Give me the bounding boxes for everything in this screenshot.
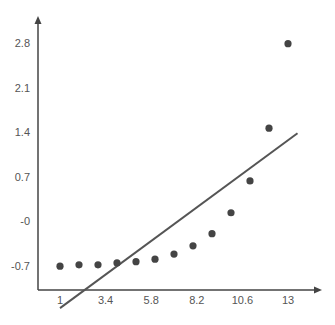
data-point — [132, 258, 139, 265]
regression-line — [60, 133, 298, 308]
data-point — [56, 263, 63, 270]
fit-line — [60, 133, 298, 308]
scatter-chart: 13.45.88.210.613-0.7-00.71.42.12.8 — [0, 0, 335, 325]
y-axis-arrow-icon — [35, 16, 42, 24]
x-tick-label: 8.2 — [189, 294, 204, 306]
tick-labels: 13.45.88.210.613-0.7-00.71.42.12.8 — [11, 37, 294, 306]
x-tick-label: 13 — [282, 294, 294, 306]
data-point — [189, 242, 196, 249]
data-point — [113, 259, 120, 266]
y-tick-label: -0.7 — [11, 260, 30, 272]
y-tick-label: -0 — [20, 215, 30, 227]
data-point — [170, 250, 177, 257]
y-tick-label: 2.8 — [15, 37, 30, 49]
data-point — [284, 40, 291, 47]
y-tick-label: 0.7 — [15, 171, 30, 183]
data-point — [75, 261, 82, 268]
x-axis-arrow-icon — [314, 287, 322, 294]
x-tick-label: 1 — [57, 294, 63, 306]
axes — [35, 16, 323, 294]
data-point — [246, 177, 253, 184]
data-point — [265, 125, 272, 132]
y-tick-label: 1.4 — [15, 126, 30, 138]
data-point — [151, 256, 158, 263]
data-point — [227, 209, 234, 216]
data-points — [56, 40, 291, 270]
x-tick-label: 3.4 — [98, 294, 113, 306]
x-tick-label: 5.8 — [144, 294, 159, 306]
y-tick-label: 2.1 — [15, 82, 30, 94]
data-point — [94, 261, 101, 268]
data-point — [208, 230, 215, 237]
x-tick-label: 10.6 — [232, 294, 253, 306]
